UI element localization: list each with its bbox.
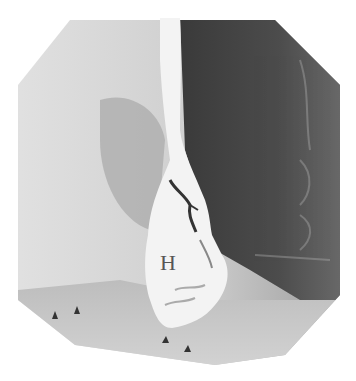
radiograph-figure: H bbox=[0, 0, 356, 381]
hernia-label: H bbox=[160, 250, 176, 275]
